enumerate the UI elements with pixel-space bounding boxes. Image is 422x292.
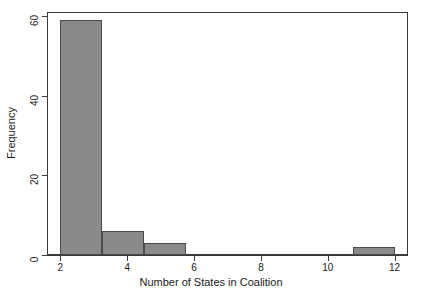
y-tick: [42, 175, 47, 176]
x-tick: [261, 256, 262, 261]
x-tick: [194, 256, 195, 261]
plot-area: [47, 12, 408, 255]
histogram-bar: [60, 20, 102, 255]
x-axis-label: Number of States in Coalition: [0, 276, 422, 288]
histogram-bar: [144, 243, 186, 255]
histogram-figure: 24681012 0204060 Number of States in Coa…: [0, 0, 422, 292]
y-tick-label: 0: [29, 247, 40, 273]
x-axis-line: [47, 255, 408, 256]
x-tick-label: 2: [45, 262, 75, 273]
y-tick: [42, 16, 47, 17]
histogram-bar: [102, 231, 144, 255]
x-tick: [328, 256, 329, 261]
y-tick-label: 40: [29, 87, 40, 113]
x-tick-label: 10: [313, 262, 343, 273]
x-tick-label: 8: [246, 262, 276, 273]
x-tick: [127, 256, 128, 261]
x-tick-label: 4: [112, 262, 142, 273]
y-axis-line: [47, 12, 48, 255]
y-axis-label: Frequency: [5, 73, 17, 193]
y-tick: [42, 96, 47, 97]
y-tick: [42, 255, 47, 256]
histogram-bar: [353, 247, 395, 255]
x-tick: [60, 256, 61, 261]
x-tick-label: 12: [380, 262, 410, 273]
y-tick-label: 20: [29, 167, 40, 193]
x-tick-label: 6: [179, 262, 209, 273]
x-tick: [395, 256, 396, 261]
y-tick-label: 60: [29, 7, 40, 33]
